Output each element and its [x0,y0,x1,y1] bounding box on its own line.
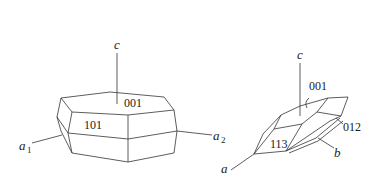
face-012-edge [317,112,341,116]
left-a1-axis [32,135,62,143]
a1-subscript: 1 [27,145,32,155]
left-crystal: c 001 101 a 1 a 2 [19,37,226,162]
right-c-label: c [297,47,303,62]
a1-label: a [19,138,26,153]
leader-001 [306,98,309,108]
left-c-label: c [114,37,120,52]
face-001-outline [61,92,174,115]
bottom-edge [72,153,174,162]
b-label: b [334,145,341,160]
right-crystal: c 001 113 012 b a [221,47,361,176]
face-101-label: 101 [84,118,102,132]
b-axis-leader [318,138,334,148]
a2-subscript: 2 [221,135,226,145]
right-lower-edge-1 [286,118,340,151]
left-face-001-label: 001 [124,96,142,110]
face-012-label: 012 [343,120,361,134]
right-face-001-label: 001 [309,79,327,93]
right-a-axis [231,154,254,170]
left-a2-axis [177,131,212,135]
right-a-label: a [221,161,228,176]
crystal-diagram: c 001 101 a 1 a 2 c 001 113 012 b a [0,0,383,187]
face-113-label: 113 [270,137,288,151]
a2-label: a [213,128,220,143]
belt-edge [68,131,177,139]
left-inner-edge [57,117,68,133]
